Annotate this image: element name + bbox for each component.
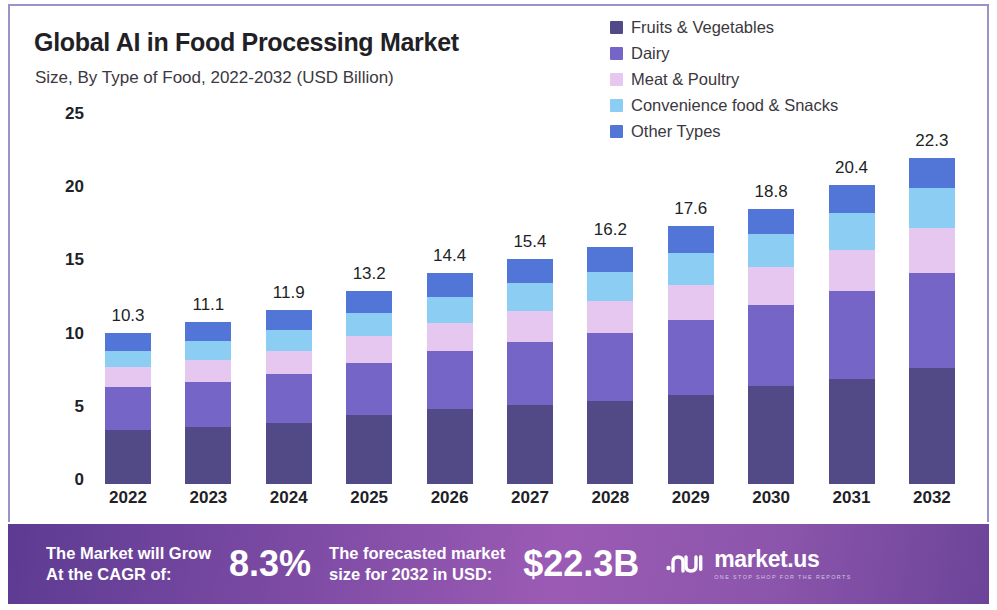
infographic-root: Global AI in Food Processing Market Size… [0, 0, 997, 610]
bar-segment[interactable] [266, 374, 312, 422]
bar-segment[interactable] [185, 427, 231, 484]
bar-total-label: 10.3 [88, 306, 168, 326]
x-axis-tick-label: 2030 [731, 488, 811, 508]
bar-segment[interactable] [427, 409, 473, 484]
bar-segment[interactable] [587, 272, 633, 301]
legend-swatch-icon [610, 47, 623, 60]
bar-segment[interactable] [427, 297, 473, 323]
bar-segment[interactable] [748, 267, 794, 305]
bar-segment[interactable] [909, 158, 955, 189]
bar-column[interactable]: 10.3 [88, 118, 168, 484]
bar-column[interactable]: 16.2 [570, 118, 650, 484]
bar-segment[interactable] [748, 209, 794, 234]
bar-segment[interactable] [507, 283, 553, 311]
bar-segment[interactable] [105, 430, 151, 484]
bar-stack[interactable] [427, 273, 473, 484]
bar-stack[interactable] [346, 291, 392, 484]
bar-column[interactable]: 13.2 [329, 118, 409, 484]
bar-stack[interactable] [748, 209, 794, 484]
bar-stack[interactable] [105, 333, 151, 484]
bar-segment[interactable] [668, 226, 714, 252]
bar-segment[interactable] [829, 185, 875, 213]
y-axis-tick-label: 10 [65, 324, 84, 344]
bar-segment[interactable] [266, 351, 312, 374]
bar-segment[interactable] [909, 188, 955, 228]
bar-segment[interactable] [105, 387, 151, 429]
x-axis-tick-label: 2024 [249, 488, 329, 508]
bar-segment[interactable] [587, 301, 633, 333]
bar-segment[interactable] [909, 273, 955, 368]
bar-segment[interactable] [185, 322, 231, 341]
bar-column[interactable]: 22.3 [892, 118, 972, 484]
bar-total-label: 22.3 [892, 131, 972, 151]
bar-segment[interactable] [829, 213, 875, 250]
bar-stack[interactable] [507, 259, 553, 484]
bar-segment[interactable] [909, 368, 955, 484]
bar-segment[interactable] [909, 228, 955, 273]
bar-segment[interactable] [346, 313, 392, 336]
bar-segment[interactable] [507, 405, 553, 484]
bar-segment[interactable] [105, 367, 151, 387]
bar-segment[interactable] [346, 415, 392, 484]
bar-segment[interactable] [427, 323, 473, 351]
bar-total-label: 11.9 [249, 283, 329, 303]
bar-column[interactable]: 17.6 [651, 118, 731, 484]
bar-segment[interactable] [587, 401, 633, 484]
bar-stack[interactable] [266, 310, 312, 484]
y-axis-tick-label: 25 [65, 104, 84, 124]
x-axis-tick-label: 2023 [168, 488, 248, 508]
x-axis-tick-label: 2025 [329, 488, 409, 508]
y-axis-tick-label: 0 [75, 470, 84, 490]
bar-segment[interactable] [427, 351, 473, 410]
bar-segment[interactable] [507, 311, 553, 342]
bar-total-label: 20.4 [812, 158, 892, 178]
bar-segment[interactable] [668, 285, 714, 320]
bar-total-label: 11.1 [168, 295, 248, 315]
bar-segment[interactable] [266, 423, 312, 484]
x-axis-tick-label: 2027 [490, 488, 570, 508]
bar-segment[interactable] [829, 250, 875, 291]
bar-segment[interactable] [346, 291, 392, 313]
bar-segment[interactable] [185, 341, 231, 360]
bar-column[interactable]: 14.4 [410, 118, 490, 484]
bar-stack[interactable] [909, 158, 955, 484]
bar-segment[interactable] [266, 310, 312, 330]
forecast-value: $22.3B [523, 543, 639, 585]
bar-segment[interactable] [748, 305, 794, 386]
bar-segment[interactable] [507, 342, 553, 405]
bar-segment[interactable] [829, 291, 875, 379]
x-axis-tick-label: 2022 [88, 488, 168, 508]
bar-column[interactable]: 18.8 [731, 118, 811, 484]
plot-area: 10.311.111.913.214.415.416.217.618.820.4… [88, 118, 972, 484]
bar-total-label: 16.2 [570, 220, 650, 240]
brand-name: market.us [714, 548, 851, 571]
bar-segment[interactable] [346, 363, 392, 416]
bar-segment[interactable] [266, 330, 312, 350]
bar-segment[interactable] [105, 351, 151, 367]
bar-segment[interactable] [668, 395, 714, 484]
bar-segment[interactable] [105, 333, 151, 351]
bar-stack[interactable] [829, 185, 875, 484]
bar-segment[interactable] [668, 253, 714, 285]
legend-item-label: Convenience food & Snacks [631, 96, 838, 115]
bar-column[interactable]: 20.4 [812, 118, 892, 484]
forecast-label-line1: The forecasted market [329, 543, 505, 564]
bar-column[interactable]: 11.1 [168, 118, 248, 484]
bar-segment[interactable] [748, 386, 794, 484]
bar-stack[interactable] [668, 226, 714, 484]
bar-segment[interactable] [587, 333, 633, 400]
bar-segment[interactable] [587, 247, 633, 272]
bar-stack[interactable] [185, 322, 231, 484]
bar-segment[interactable] [748, 234, 794, 268]
bar-column[interactable]: 11.9 [249, 118, 329, 484]
bar-segment[interactable] [427, 273, 473, 296]
bar-stack[interactable] [587, 247, 633, 484]
bar-column[interactable]: 15.4 [490, 118, 570, 484]
x-axis-tick-label: 2029 [651, 488, 731, 508]
bar-segment[interactable] [185, 382, 231, 427]
bar-segment[interactable] [668, 320, 714, 395]
bar-segment[interactable] [507, 259, 553, 284]
bar-segment[interactable] [346, 336, 392, 362]
bar-segment[interactable] [829, 379, 875, 484]
bar-segment[interactable] [185, 360, 231, 382]
